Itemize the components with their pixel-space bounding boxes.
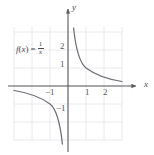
- plot-area: [0, 0, 154, 155]
- equals-sign: =: [31, 44, 36, 54]
- curve-branch-positive: [74, 28, 122, 82]
- y-axis-label: y: [72, 3, 76, 12]
- fraction-one-over-x: 1 x: [38, 41, 44, 57]
- function-label: f(x) = 1 x: [16, 41, 44, 57]
- x-tick-label-minus-1: −1: [45, 88, 55, 97]
- y-tick-label-minus-1: −1: [56, 104, 66, 113]
- x-tick-label-1: 1: [85, 88, 90, 97]
- y-tick-label-1: 1: [60, 60, 65, 69]
- fraction-numerator: 1: [38, 41, 44, 48]
- x-tick-label-2: 2: [103, 88, 108, 97]
- y-tick-label-2: 2: [60, 42, 65, 51]
- curve-branch-negative: [14, 91, 62, 145]
- fraction-denominator: x: [38, 49, 43, 56]
- x-axis-label: x: [144, 80, 148, 89]
- graph-figure: y x −1 1 2 2 1 −1 f(x) = 1 x: [0, 0, 154, 155]
